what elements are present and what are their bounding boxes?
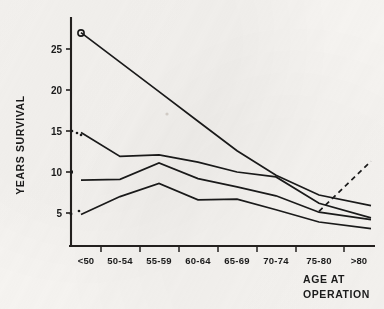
x-tick-label-7: >80 (351, 255, 368, 266)
marker-dot-curve-2-c (80, 134, 83, 137)
x-tick-label-4: 65-69 (224, 255, 249, 266)
x-axis-title-line1: AGE AT (303, 273, 345, 285)
x-tick-label-0: <50 (78, 255, 95, 266)
x-tick-label-5: 70-74 (263, 255, 289, 266)
x-tick-label-3: 60-64 (185, 255, 211, 266)
x-tick-label-2: 55-59 (146, 255, 171, 266)
line-chart-canvas: 5 10 15 20 25 YEARS SURVIVAL <50 50-54 5… (0, 0, 384, 309)
x-tick-label-6: 75-80 (306, 255, 331, 266)
marker-dot-curve-2-a (71, 130, 74, 133)
marker-square-curve-3 (70, 171, 73, 174)
marker-dot-curve-4-b (78, 210, 81, 213)
x-axis-title-line2: OPERATION (303, 288, 370, 300)
y-axis-title: YEARS SURVIVAL (14, 95, 26, 195)
y-tick-label-25: 25 (51, 44, 63, 55)
marker-dot-curve-4-a (70, 213, 73, 216)
x-tick-label-1: 50-54 (107, 255, 133, 266)
chart-figure: 5 10 15 20 25 YEARS SURVIVAL <50 50-54 5… (0, 0, 384, 309)
marker-dot-curve-2-b (76, 132, 79, 135)
y-tick-label-15: 15 (51, 126, 63, 137)
scan-speck (165, 112, 168, 115)
y-tick-label-10: 10 (51, 167, 63, 178)
y-tick-label-20: 20 (51, 85, 63, 96)
y-tick-label-5: 5 (56, 208, 62, 219)
